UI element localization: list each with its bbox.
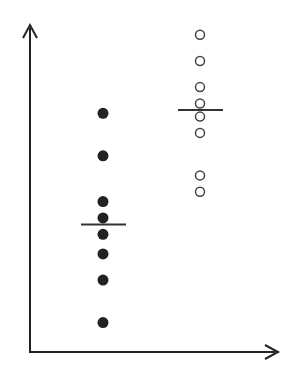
- y-axis: [23, 25, 37, 352]
- x-axis: [29, 345, 278, 359]
- open-data-point: [196, 187, 205, 196]
- open-data-point: [196, 171, 205, 180]
- series-1: [81, 108, 126, 328]
- filled-data-point: [98, 229, 109, 240]
- series-layer: [81, 30, 223, 328]
- open-data-point: [196, 30, 205, 39]
- filled-data-point: [98, 275, 109, 286]
- open-data-point: [196, 99, 205, 108]
- filled-data-point: [98, 108, 109, 119]
- filled-data-point: [98, 248, 109, 259]
- filled-data-point: [98, 196, 109, 207]
- filled-data-point: [98, 212, 109, 223]
- open-data-point: [196, 112, 205, 121]
- filled-data-point: [98, 150, 109, 161]
- open-data-point: [196, 57, 205, 66]
- dot-plot-chart: [0, 0, 298, 377]
- series-2: [178, 30, 223, 196]
- filled-data-point: [98, 317, 109, 328]
- open-data-point: [196, 128, 205, 137]
- open-data-point: [196, 83, 205, 92]
